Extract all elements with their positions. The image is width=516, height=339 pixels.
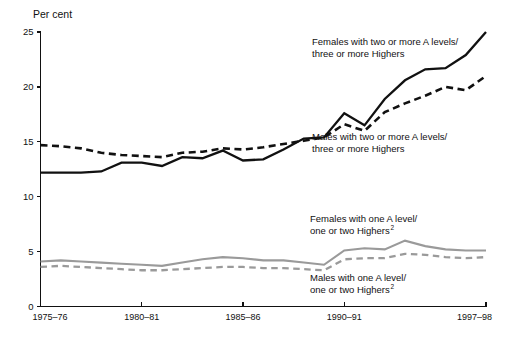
line-chart: Per cent 0510152025 1975–761980–811985–8… [0, 0, 516, 339]
annotation-males-two-or-more: Males with two or more A levels/ three o… [312, 131, 448, 154]
annotation-males-one-a-level: Males with one A level/ one or two Highe… [310, 272, 406, 295]
y-tick-label: 0 [28, 301, 33, 312]
x-tick-label: 1985–86 [225, 312, 260, 322]
annotation-females-two-or-more: Females with two or more A levels/ three… [312, 36, 459, 59]
y-axis-unit-label: Per cent [33, 8, 72, 20]
series-line-males-two-or-more-a-levels [41, 76, 487, 157]
chart-canvas: Per cent 0510152025 1975–761980–811985–8… [0, 0, 516, 339]
x-tick-label: 1990–91 [327, 312, 362, 322]
annotation-females-one-a-level-line1: Females with one A level/ [310, 213, 418, 224]
series-line-females-two-or-more-a-levels [41, 32, 487, 173]
y-tick-label: 15 [23, 136, 34, 147]
y-tick-label: 10 [23, 191, 34, 202]
y-tick-label: 5 [28, 246, 33, 257]
annotation-females-two-or-more-line2: three or more Highers [312, 48, 405, 59]
annotation-females-one-a-level: Females with one A level/ one or two Hig… [310, 213, 418, 236]
annotation-males-one-a-level-superscript: 2 [391, 283, 395, 290]
series-line-females-one-a-level [41, 241, 487, 266]
x-tick-label: 1975–76 [33, 312, 68, 322]
annotation-males-two-or-more-line2: three or more Highers [312, 143, 405, 154]
y-tick-label: 20 [23, 81, 34, 92]
x-tick-label: 1980–81 [124, 312, 159, 322]
x-tick-label: 1997–98 [457, 312, 492, 322]
annotation-males-one-a-level-line1: Males with one A level/ [310, 272, 406, 283]
annotation-females-two-or-more-line1: Females with two or more A levels/ [312, 36, 459, 47]
annotation-females-one-a-level-line2: one or two Highers [310, 225, 390, 236]
y-axis-ticks: 0510152025 [23, 26, 41, 312]
annotation-males-one-a-level-line2: one or two Highers [310, 284, 390, 295]
annotation-males-two-or-more-line1: Males with two or more A levels/ [312, 131, 448, 142]
annotation-females-one-a-level-superscript: 2 [391, 224, 395, 231]
y-tick-label: 25 [23, 26, 34, 37]
x-axis-ticks: 1975–761980–811985–861990–911997–98 [33, 302, 493, 322]
